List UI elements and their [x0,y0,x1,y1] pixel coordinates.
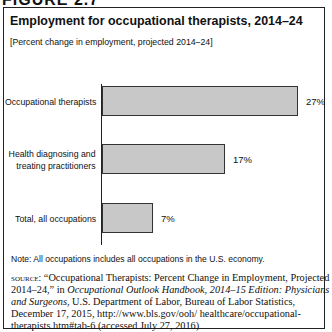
value-label: 17% [233,154,252,165]
source-label: source: [11,273,41,283]
chart-note: Note: All occupations includes all occup… [11,253,265,264]
category-label: Health diagnosing and treating practitio… [9,148,96,172]
category-label: Total, all occupations [15,213,96,225]
bar-health-practitioners [102,144,225,174]
category-label-line: Health diagnosing and [9,148,96,160]
bar-occupational-therapists [102,86,298,116]
chart-subtitle: [Percent change in employment, projected… [10,36,213,47]
source-citation: source: “Occupational Therapists: Percen… [11,272,331,332]
value-label: 7% [161,213,175,224]
category-label: Occupational therapists [5,96,96,108]
chart-title: Employment for occupational therapists, … [10,13,303,28]
bar-total-all-occupations [102,203,153,233]
value-label: 27% [306,96,325,107]
category-label-line: treating practitioners [9,160,96,172]
